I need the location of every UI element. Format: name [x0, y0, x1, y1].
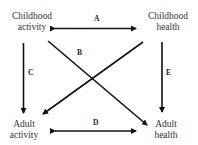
node-adult-activity: Adult activity: [4, 119, 44, 141]
edge-label-b: B: [77, 48, 82, 57]
edge-b-arrow: [48, 41, 147, 125]
edge-label-a: A: [94, 14, 99, 23]
edge-f-arrow: [43, 42, 143, 114]
edge-label-d: D: [93, 118, 98, 127]
edge-label-c: C: [28, 68, 33, 77]
edge-label-e: E: [166, 68, 171, 77]
node-adult-health: Adult health: [146, 119, 186, 141]
node-childhood-health: Childhood health: [140, 11, 196, 33]
node-childhood-activity: Childhood activity: [4, 11, 60, 33]
